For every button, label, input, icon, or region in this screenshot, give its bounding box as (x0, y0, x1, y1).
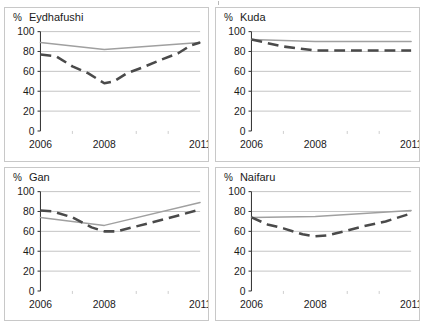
x-tick-label: 2006 (240, 139, 263, 150)
y-tick-label: 40 (234, 86, 246, 97)
y-tick-label: 0 (29, 126, 35, 137)
x-tick-label: 2011 (189, 139, 208, 150)
y-tick-label: 20 (234, 265, 246, 276)
plot-area-naifaru: 020406080100200620082011 (216, 168, 419, 321)
x-tick-label: 2006 (240, 298, 263, 309)
x-tick-label: 2011 (400, 139, 419, 150)
series-line-solid-gray (251, 40, 411, 42)
y-tick-label: 0 (240, 285, 246, 296)
y-tick-label: 20 (23, 106, 35, 117)
panel-kuda: % Kuda 020406080100200620082011 (215, 7, 420, 162)
plot-area-eydhafushi: 020406080100200620082011 (5, 8, 208, 161)
y-tick-label: 100 (228, 186, 246, 197)
y-tick-label: 40 (234, 245, 246, 256)
y-tick-label: 80 (23, 206, 35, 217)
y-tick-label: 100 (17, 26, 35, 37)
y-tick-label: 20 (234, 106, 246, 117)
series-line-solid-gray (40, 43, 200, 50)
panel-eydhafushi: % Eydhafushi 020406080100200620082011 (4, 7, 209, 162)
y-tick-label: 80 (23, 46, 35, 57)
x-tick-label: 2008 (93, 298, 116, 309)
x-tick-label: 2008 (304, 139, 327, 150)
x-tick-label: 2011 (400, 298, 419, 309)
x-tick-label: 2008 (304, 298, 327, 309)
panel-gan: % Gan 020406080100200620082011 (4, 167, 209, 322)
y-tick-label: 60 (234, 226, 246, 237)
y-tick-label: 80 (234, 206, 246, 217)
y-tick-label: 80 (234, 46, 246, 57)
y-tick-label: 60 (23, 226, 35, 237)
panel-grid: % Eydhafushi 020406080100200620082011 % … (0, 7, 424, 324)
y-tick-label: 60 (23, 66, 35, 77)
x-tick-label: 2011 (189, 298, 208, 309)
plot-area-kuda: 020406080100200620082011 (216, 8, 419, 161)
y-tick-label: 40 (23, 245, 35, 256)
x-tick-label: 2006 (29, 298, 52, 309)
plot-area-gan: 020406080100200620082011 (5, 168, 208, 321)
panel-naifaru: % Naifaru 020406080100200620082011 (215, 167, 420, 322)
y-tick-label: 20 (23, 265, 35, 276)
y-tick-label: 100 (17, 186, 35, 197)
y-tick-label: 100 (228, 26, 246, 37)
small-multiples-figure: % Eydhafushi 020406080100200620082011 % … (0, 0, 424, 324)
y-tick-label: 0 (29, 285, 35, 296)
y-tick-label: 40 (23, 86, 35, 97)
y-tick-label: 60 (234, 66, 246, 77)
y-tick-label: 0 (240, 126, 246, 137)
stray-tick-artifact (218, 1, 219, 5)
x-tick-label: 2008 (93, 139, 116, 150)
x-tick-label: 2006 (29, 139, 52, 150)
